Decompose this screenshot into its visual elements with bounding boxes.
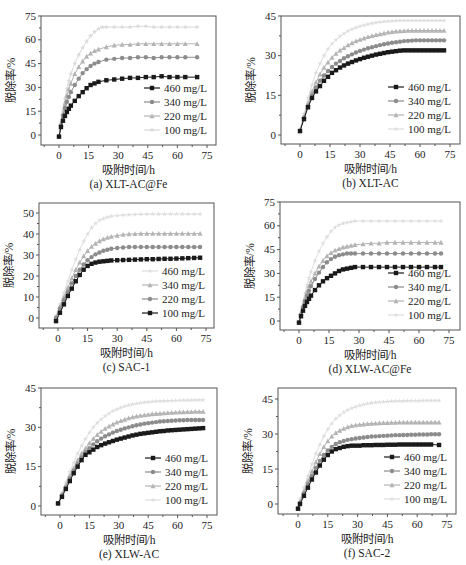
data-point-marker — [152, 75, 156, 79]
x-tick-label: 30 — [113, 149, 125, 161]
data-point-marker — [393, 443, 397, 447]
data-point-marker — [413, 442, 417, 446]
data-point-marker — [346, 54, 350, 58]
legend-item: 100 mg/L — [384, 493, 447, 505]
data-point-marker — [321, 434, 326, 439]
data-point-marker — [401, 251, 405, 255]
data-point-marker — [151, 245, 155, 249]
data-point-marker — [166, 428, 170, 432]
data-point-marker — [185, 427, 189, 431]
legend-marker-icon — [150, 86, 154, 90]
data-point-marker — [78, 273, 82, 277]
x-axis-label: 吸附时间/h — [341, 532, 394, 545]
legend-marker-icon — [394, 85, 398, 89]
y-tick-label: 0 — [31, 500, 37, 512]
y-tick-label: 30 — [25, 421, 37, 433]
data-point-marker — [76, 52, 81, 57]
data-point-marker — [115, 258, 119, 262]
data-point-marker — [437, 443, 441, 447]
data-point-marker — [410, 48, 414, 52]
x-tick-label: 75 — [202, 149, 214, 161]
data-point-marker — [314, 89, 318, 93]
data-point-marker — [370, 53, 374, 57]
data-point-marker — [338, 59, 342, 63]
data-point-marker — [83, 436, 88, 441]
data-point-marker — [93, 252, 97, 256]
data-point-marker — [390, 50, 394, 54]
data-point-marker — [77, 94, 81, 98]
data-point-marker — [139, 245, 143, 249]
x-axis: 01530456075 — [45, 515, 213, 531]
y-axis: 0153045 — [265, 10, 281, 141]
x-tick-label: 75 — [202, 519, 214, 531]
data-point-marker — [298, 502, 302, 506]
data-point-marker — [322, 73, 326, 77]
data-point-marker — [402, 48, 406, 52]
x-tick-label: 15 — [322, 518, 334, 530]
x-tick-label: 45 — [143, 519, 155, 531]
y-tick-label: 30 — [264, 267, 276, 279]
chart-panel-f: 015304501530456075吸附时间/h脱除率/%(f) SAC-246… — [241, 388, 456, 560]
data-point-marker — [120, 56, 124, 60]
x-axis-label: 吸附时间/h — [344, 348, 397, 361]
y-tick-label: 20 — [23, 270, 35, 282]
legend-item: 220 mg/L — [384, 479, 447, 491]
data-point-marker — [64, 487, 68, 491]
legend-marker-icon — [390, 455, 394, 459]
data-point-marker — [312, 258, 317, 263]
data-point-marker — [433, 432, 437, 436]
chart-caption: (b) XLT-AC — [342, 177, 399, 190]
data-point-marker — [322, 79, 326, 83]
data-point-marker — [128, 76, 132, 80]
legend-item: 100 mg/L — [144, 124, 207, 136]
data-point-marker — [397, 442, 401, 446]
legend-label: 220 mg/L — [164, 110, 207, 122]
data-point-marker — [337, 428, 342, 433]
legend-label: 220 mg/L — [408, 295, 451, 307]
x-axis: 01530456075 — [44, 145, 213, 161]
data-point-marker — [326, 448, 330, 452]
data-point-marker — [145, 245, 149, 249]
x-tick-label: 30 — [354, 334, 366, 346]
x-axis-label: 吸附时间/h — [344, 162, 397, 175]
data-point-marker — [144, 55, 148, 59]
data-point-marker — [72, 71, 77, 76]
data-point-marker — [405, 433, 409, 437]
data-point-marker — [69, 103, 73, 107]
data-point-marker — [341, 445, 345, 449]
x-tick-label: 75 — [442, 518, 454, 530]
data-point-marker — [442, 48, 446, 52]
data-point-marker — [345, 251, 349, 255]
data-point-marker — [329, 257, 333, 261]
data-point-marker — [349, 437, 353, 441]
data-point-marker — [186, 245, 190, 249]
data-point-marker — [418, 48, 422, 52]
data-point-marker — [306, 485, 310, 489]
legend: 460 mg/L340 mg/L220 mg/L100 mg/L — [145, 452, 208, 506]
data-point-marker — [326, 453, 330, 457]
data-point-marker — [186, 256, 190, 260]
legend: 460 mg/L340 mg/L220 mg/L100 mg/L — [142, 265, 205, 319]
data-point-marker — [96, 80, 100, 84]
legend-label: 100 mg/L — [164, 124, 207, 136]
data-point-marker — [158, 429, 162, 433]
data-point-marker — [84, 86, 88, 90]
data-point-marker — [193, 418, 197, 422]
data-point-marker — [185, 418, 189, 422]
data-point-marker — [382, 51, 386, 55]
data-point-marker — [370, 45, 374, 49]
data-point-marker — [341, 439, 345, 443]
legend-item: 220 mg/L — [142, 293, 205, 305]
legend-item: 340 mg/L — [388, 281, 451, 293]
data-point-marker — [126, 434, 130, 438]
data-point-marker — [130, 424, 134, 428]
data-point-marker — [353, 436, 357, 440]
legend-label: 220 mg/L — [404, 479, 447, 491]
data-point-marker — [425, 432, 429, 436]
chart-panel-c: 0102030405001530456075吸附时间/h脱除率/%(c) SAC… — [2, 203, 214, 374]
x-axis-label: 吸附时间/h — [103, 533, 156, 546]
data-point-marker — [345, 438, 349, 442]
x-tick-label: 15 — [83, 149, 95, 161]
data-point-marker — [63, 106, 67, 110]
data-point-marker — [382, 42, 386, 46]
